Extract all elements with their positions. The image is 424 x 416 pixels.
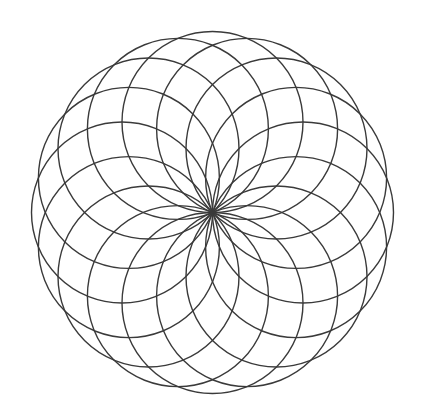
figure-canvas <box>0 0 424 416</box>
rosette-figure <box>0 0 424 416</box>
